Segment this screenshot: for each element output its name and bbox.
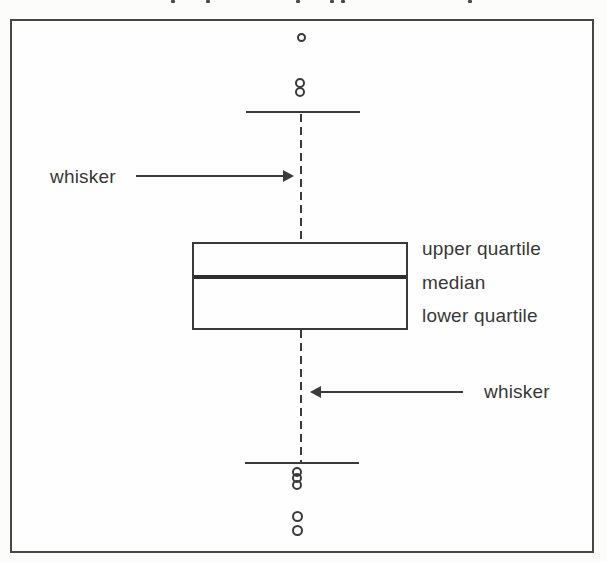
caption-fragment (341, 0, 345, 3)
lower-whisker-dashed-line (300, 330, 302, 463)
outlier-circle-top-1 (297, 33, 306, 42)
lower-quartile-label: lower quartile (422, 305, 538, 326)
upper-quartile-label: upper quartile (422, 238, 541, 259)
upper-whisker-arrow-line (136, 175, 283, 177)
caption-fragment (330, 0, 334, 3)
lower-whisker-arrowhead-icon (310, 386, 321, 398)
upper-whisker-dashed-line (300, 114, 302, 242)
median-label: median (422, 272, 486, 293)
caption-fragment (206, 0, 210, 3)
upper-whisker-arrowhead-icon (283, 170, 294, 182)
outlier-circle-bottom-5 (292, 525, 303, 536)
outlier-circle-bottom-4 (292, 511, 303, 522)
caption-fragment (296, 0, 300, 3)
boxplot-anatomy-figure: { "figure": { "type": "boxplot-anatomy-d… (0, 0, 607, 562)
outlier-circle-bottom-3 (292, 480, 302, 490)
outlier-circle-top-3 (295, 87, 305, 97)
caption-fragment (468, 0, 472, 3)
caption-fragment (171, 0, 175, 3)
iqr-box (192, 242, 408, 330)
lower-whisker-arrow-line (321, 391, 463, 393)
lower-whisker-cap (245, 462, 359, 464)
median-line (194, 275, 406, 279)
upper-whisker-label: whisker (50, 166, 116, 187)
lower-whisker-label: whisker (484, 381, 550, 402)
upper-whisker-cap (246, 111, 360, 113)
